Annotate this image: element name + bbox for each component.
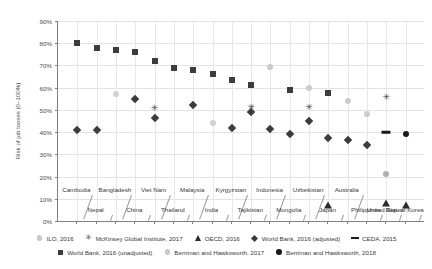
x-category-label: Tajikistan	[237, 206, 262, 213]
data-point-square	[325, 90, 331, 96]
x-category-label: Mongolia	[276, 206, 301, 213]
x-axis-line	[57, 221, 424, 222]
x-category-label: China	[126, 206, 142, 213]
data-point-square	[210, 71, 216, 77]
y-tick-label: 60%	[40, 84, 52, 91]
legend-item[interactable]: Berriman and Hawksworth, 2017	[163, 248, 264, 256]
data-point-square	[152, 58, 158, 64]
gridline-horizontal	[58, 154, 424, 155]
x-tick-mark	[192, 221, 193, 224]
x-category-label: Rep. of Korea	[386, 206, 424, 213]
y-tick-mark	[55, 110, 58, 111]
legend-star-icon: ✳	[85, 234, 93, 242]
y-tick-mark	[55, 21, 58, 22]
legend-item[interactable]: ILO, 2016	[35, 234, 73, 242]
x-tick-mark	[96, 221, 97, 224]
legend-label: CEDA, 2015	[362, 235, 396, 242]
x-category-label: Uzbekistan	[293, 186, 324, 193]
x-tick-mark	[366, 221, 367, 224]
legend-row-2: World Bank, 2016 (unadjusted)Berriman an…	[0, 248, 432, 256]
legend-item[interactable]: World Bank, 2016 (unadjusted)	[56, 248, 152, 256]
x-category-label: Kyrgyzstan	[216, 186, 247, 193]
data-point-square	[229, 77, 235, 83]
y-axis-title: Risk of job losses (0–100%)	[12, 21, 22, 221]
x-tick-mark	[154, 221, 155, 224]
gridline-vertical	[174, 21, 175, 221]
data-point-square	[287, 87, 293, 93]
gridline-horizontal	[58, 132, 424, 133]
data-point-dash	[382, 131, 391, 134]
y-tick-mark	[55, 65, 58, 66]
y-tick-mark	[55, 154, 58, 155]
x-category-label: Bangladesh	[99, 186, 132, 193]
y-tick-label: 70%	[40, 62, 52, 69]
legend-item[interactable]: Berriman and Hawksworth, 2018	[275, 248, 376, 256]
gridline-vertical	[290, 21, 291, 221]
data-point-circle	[306, 85, 312, 91]
data-point-star: ✳	[383, 93, 391, 99]
y-tick-label: 0%	[43, 218, 52, 225]
legend-label: Berriman and Hawksworth, 2017	[174, 249, 264, 256]
data-point-square	[171, 65, 177, 71]
y-tick-label: 40%	[40, 129, 52, 136]
y-tick-label: 20%	[40, 173, 52, 180]
gridline-horizontal	[58, 199, 424, 200]
y-tick-mark	[55, 199, 58, 200]
legend-circle-icon	[275, 248, 283, 256]
y-tick-label: 10%	[40, 195, 52, 202]
y-tick-mark	[55, 43, 58, 44]
legend-item[interactable]: ✳McKinsey Global Institute, 2017	[85, 234, 183, 242]
legend-item[interactable]: OECD, 2016	[194, 234, 240, 242]
data-point-square	[113, 47, 119, 53]
x-category-label: Cambodia	[62, 186, 90, 193]
legend-row-1: ILO, 2016✳McKinsey Global Institute, 201…	[0, 234, 432, 242]
x-tick-mark	[134, 221, 135, 224]
x-category-label: Nepal	[88, 206, 104, 213]
gridline-vertical	[406, 21, 407, 221]
legend-circle-icon	[163, 248, 171, 256]
legend-diamond-icon	[251, 234, 259, 242]
x-tick-mark	[115, 221, 116, 224]
x-tick-mark	[173, 221, 174, 224]
x-tick-mark	[308, 221, 309, 224]
gridline-vertical	[251, 21, 252, 221]
gridline-horizontal	[58, 65, 424, 66]
legend-triangle-icon	[194, 234, 202, 242]
x-tick-mark	[231, 221, 232, 224]
data-point-circle	[383, 171, 389, 177]
data-point-circle	[345, 98, 351, 104]
y-tick-mark	[55, 177, 58, 178]
data-point-square	[248, 82, 254, 88]
legend-item[interactable]: CEDA, 2015	[351, 234, 396, 242]
data-point-diamond	[343, 136, 351, 144]
data-point-circle-dark	[403, 131, 409, 137]
x-category-label: Thailand	[161, 206, 185, 213]
y-tick-label: 90%	[40, 18, 52, 25]
x-tick-mark	[250, 221, 251, 224]
y-tick-label: 50%	[40, 106, 52, 113]
data-point-star: ✳	[151, 104, 159, 110]
x-tick-mark	[76, 221, 77, 224]
legend-label: Berriman and Hawksworth, 2018	[286, 249, 376, 256]
data-point-circle	[113, 91, 119, 97]
gridline-horizontal	[58, 88, 424, 89]
x-category-label: Malaysia	[180, 186, 204, 193]
gridline-vertical	[97, 21, 98, 221]
legend-label: World Bank, 2016 (unadjusted)	[67, 249, 152, 256]
legend-item[interactable]: World Bank, 2016 (adjusted)	[251, 234, 340, 242]
x-tick-mark	[327, 221, 328, 224]
x-category-label: Indonesia	[256, 186, 283, 193]
data-point-circle	[364, 111, 370, 117]
x-tick-mark	[269, 221, 270, 224]
chart-container: Risk of job losses (0–100%) 0%10%20%30%4…	[0, 0, 432, 269]
x-category-label: Australia	[335, 186, 359, 193]
data-point-square	[94, 45, 100, 51]
x-tick-mark	[347, 221, 348, 224]
data-point-square	[190, 67, 196, 73]
y-axis-title-text: Risk of job losses (0–100%)	[14, 83, 21, 160]
data-point-circle	[267, 64, 273, 70]
legend-label: McKinsey Global Institute, 2017	[96, 235, 183, 242]
data-point-diamond	[228, 123, 236, 131]
y-tick-label: 30%	[40, 151, 52, 158]
legend-label: World Bank, 2016 (adjusted)	[262, 235, 340, 242]
